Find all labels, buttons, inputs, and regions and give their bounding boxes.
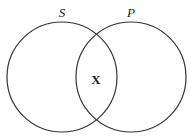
label-s: S	[59, 5, 66, 20]
venn-diagram: S P X	[0, 0, 191, 139]
intersection-mark: X	[91, 72, 101, 87]
label-p: P	[126, 5, 135, 20]
